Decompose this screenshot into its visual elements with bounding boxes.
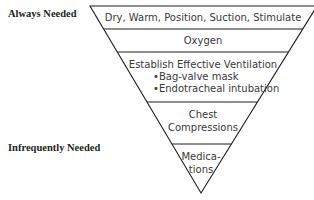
tier-chest-compressions-line: Compressions: [168, 122, 238, 133]
tier-medications-line: tions: [189, 164, 213, 175]
tier-oxygen-line: Oxygen: [184, 35, 223, 46]
tier-ventilation-line: •Endotracheal intubation: [153, 83, 279, 94]
tier-ventilation-line: Establish Effective Ventilation: [129, 59, 277, 70]
tier-chest-compressions-line: Chest: [189, 109, 218, 120]
resuscitation-pyramid: Dry, Warm, Position, Suction, StimulateO…: [0, 0, 314, 200]
tier-ventilation-line: •Bag-valve mask: [153, 71, 239, 82]
tier-initial-steps-line: Dry, Warm, Position, Suction, Stimulate: [105, 12, 302, 23]
tier-medications-line: Medica-: [181, 151, 221, 162]
